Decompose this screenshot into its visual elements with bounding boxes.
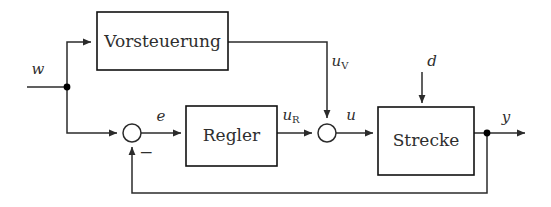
signal-label-u-r: uR xyxy=(282,106,300,125)
branch-node-y xyxy=(484,130,491,137)
block-strecke-label: Strecke xyxy=(393,130,460,150)
block-regler[interactable]: Regler xyxy=(186,106,277,166)
wire-w-branch-down xyxy=(67,87,117,133)
signal-label-w: w xyxy=(32,60,45,78)
control-block-diagram: Vorsteuerung Regler Strecke w e uR uV u … xyxy=(0,0,551,207)
wire-w-branch-up xyxy=(67,42,91,87)
signal-label-u: u xyxy=(346,106,356,124)
block-vorsteuerung[interactable]: Vorsteuerung xyxy=(97,12,228,70)
signal-label-u-v: uV xyxy=(332,52,350,71)
signal-label-e: e xyxy=(157,107,166,125)
block-diagram-canvas: Vorsteuerung Regler Strecke w e uR uV u … xyxy=(0,0,551,207)
branch-node-w xyxy=(64,84,71,91)
signal-label-d: d xyxy=(427,52,437,70)
block-regler-label: Regler xyxy=(203,125,261,145)
block-vorsteuerung-label: Vorsteuerung xyxy=(103,31,221,51)
signal-label-y: y xyxy=(501,108,511,126)
summing-junction-error[interactable] xyxy=(123,124,141,142)
summing-junction-control[interactable] xyxy=(318,124,336,142)
block-strecke[interactable]: Strecke xyxy=(378,107,474,175)
minus-sign-label: − xyxy=(139,142,153,162)
